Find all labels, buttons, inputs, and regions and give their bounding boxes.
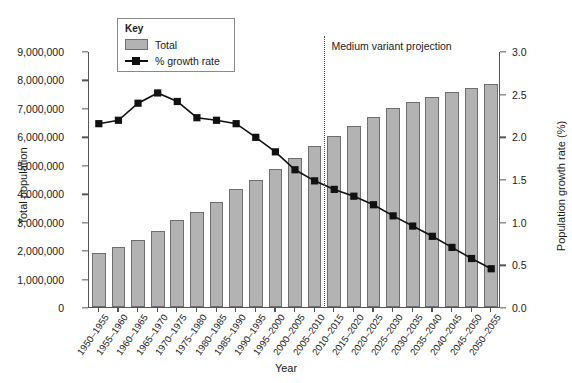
x-axis-tick-mark: [431, 308, 432, 312]
bar: [465, 88, 479, 307]
legend-item-total: Total: [125, 37, 234, 52]
x-axis-tick-mark: [196, 308, 197, 312]
bar: [308, 146, 322, 307]
y-axis-right-tick-mark: [500, 265, 506, 266]
bar: [131, 240, 145, 307]
y-axis-right-title: Population growth rate (%): [555, 91, 567, 281]
x-axis-tick-mark: [333, 308, 334, 312]
y-axis-left-tick-label: 1,000,000: [0, 274, 64, 285]
x-axis-tick-mark: [314, 308, 315, 312]
x-axis-title: Year: [0, 362, 572, 374]
y-axis-right-tick-label: 1.0: [512, 217, 552, 228]
y-axis-left-tick-label: 5,000,000: [0, 161, 64, 172]
bar: [112, 247, 126, 307]
bar: [92, 253, 106, 307]
y-axis-left-tick-label: 7,000,000: [0, 104, 64, 115]
legend-item-growth-rate: % growth rate: [125, 53, 234, 68]
x-axis-tick-mark: [294, 308, 295, 312]
growth-rate-marker: [174, 98, 181, 105]
growth-rate-marker: [272, 148, 279, 155]
bar: [288, 158, 302, 307]
x-axis-tick-mark: [471, 308, 472, 312]
x-axis-tick-mark: [412, 308, 413, 312]
bar: [484, 84, 498, 307]
population-chart: Total population Population growth rate …: [0, 0, 572, 383]
bar: [445, 92, 459, 307]
y-axis-right-tick-mark: [500, 94, 506, 95]
x-axis-tick-mark: [176, 308, 177, 312]
y-axis-right-tick-label: 1.5: [512, 175, 552, 186]
growth-rate-marker: [193, 114, 200, 121]
growth-rate-marker: [213, 117, 220, 124]
bar: [229, 189, 243, 307]
y-axis-left-tick-label: 8,000,000: [0, 75, 64, 86]
y-axis-right-tick-label: 0.0: [512, 303, 552, 314]
growth-rate-marker: [233, 120, 240, 127]
x-axis-tick-mark: [451, 308, 452, 312]
legend-item-label: % growth rate: [155, 55, 220, 67]
bar: [190, 212, 204, 307]
bar: [170, 220, 184, 307]
x-axis-tick-mark: [157, 308, 158, 312]
y-axis-left-tick-label: 3,000,000: [0, 217, 64, 228]
x-axis-tick-mark: [392, 308, 393, 312]
x-axis-tick-mark: [353, 308, 354, 312]
growth-rate-marker: [95, 120, 102, 127]
growth-rate-marker: [115, 117, 122, 124]
growth-rate-marker: [252, 134, 259, 141]
y-axis-right-tick-mark: [500, 51, 506, 52]
y-axis-right-tick-mark: [500, 179, 506, 180]
y-axis-right-tick-label: 2.5: [512, 89, 552, 100]
y-axis-left-tick-label: 0: [0, 303, 64, 314]
x-axis-tick-mark: [235, 308, 236, 312]
legend: Key Total % growth rate: [117, 18, 235, 72]
legend-item-label: Total: [155, 39, 177, 51]
y-axis-right-tick-label: 0.5: [512, 260, 552, 271]
y-axis-right-tick-mark: [500, 222, 506, 223]
plot-area: [88, 52, 500, 308]
bar: [386, 108, 400, 307]
legend-title: Key: [125, 23, 234, 34]
growth-rate-marker: [154, 89, 161, 96]
x-axis-tick-mark: [490, 308, 491, 312]
projection-divider-line: [324, 36, 325, 308]
growth-rate-marker: [134, 100, 141, 107]
bar: [367, 117, 381, 307]
bar-swatch-icon: [125, 39, 148, 50]
y-axis-left-tick-label: 4,000,000: [0, 189, 64, 200]
y-axis-right-tick-label: 3.0: [512, 47, 552, 58]
bar: [327, 136, 341, 307]
x-axis-tick-mark: [216, 308, 217, 312]
bar: [249, 180, 263, 307]
bar: [210, 202, 224, 307]
bar: [425, 97, 439, 307]
y-axis-right-tick-mark: [500, 307, 506, 308]
bar: [269, 169, 283, 307]
y-axis-right-tick-label: 2.0: [512, 132, 552, 143]
line-marker-icon: [125, 55, 148, 66]
x-axis-tick-mark: [274, 308, 275, 312]
x-axis-tick-mark: [137, 308, 138, 312]
projection-label: Medium variant projection: [331, 40, 451, 52]
y-axis-left-tick-label: 2,000,000: [0, 246, 64, 257]
y-axis-left-tick-label: 9,000,000: [0, 47, 64, 58]
bar: [151, 231, 165, 308]
x-axis-tick-mark: [372, 308, 373, 312]
bar: [347, 126, 361, 307]
x-axis-tick-mark: [117, 308, 118, 312]
x-axis-tick-mark: [255, 308, 256, 312]
bar: [406, 102, 420, 307]
y-axis-right-tick-mark: [500, 137, 506, 138]
y-axis-left-tick-label: 6,000,000: [0, 132, 64, 143]
x-axis-tick-mark: [98, 308, 99, 312]
